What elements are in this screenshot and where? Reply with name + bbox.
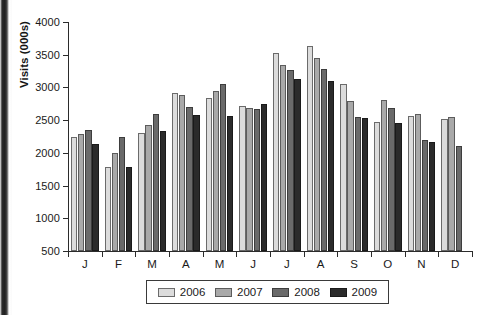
bar-2006-J xyxy=(71,137,77,252)
bar-2009-A xyxy=(328,81,334,251)
bar-2007-A xyxy=(314,58,320,251)
legend-swatch-icon-2009 xyxy=(330,288,347,297)
bar-2009-J xyxy=(92,144,98,251)
bar-2007-M xyxy=(145,125,151,251)
chart-legend: 2006200720082009 xyxy=(146,280,389,304)
y-tick-label: 3500 xyxy=(35,49,60,61)
bar-2006-M xyxy=(138,133,144,251)
bar-2006-J xyxy=(273,53,279,251)
x-tick-label-february: F xyxy=(115,258,122,270)
bar-2009-F xyxy=(126,167,132,251)
bar-2008-D xyxy=(456,146,462,251)
bar-2006-M xyxy=(206,98,212,251)
bar-2006-S xyxy=(340,84,346,251)
bar-2009-O xyxy=(395,123,401,251)
bar-2007-O xyxy=(381,100,387,251)
bar-2006-A xyxy=(307,46,313,251)
bar-2008-M xyxy=(220,84,226,251)
x-tick-label-may: M xyxy=(215,258,225,270)
bar-2008-S xyxy=(355,117,361,251)
bar-2006-D xyxy=(441,119,447,251)
x-tick-mark xyxy=(337,252,338,257)
bar-2008-J xyxy=(85,130,91,251)
legend-item-2006: 2006 xyxy=(158,286,206,298)
bar-2009-J xyxy=(261,104,267,251)
x-tick-mark xyxy=(169,252,170,257)
bar-2009-J xyxy=(294,79,300,251)
bar-2008-J xyxy=(287,70,293,251)
x-tick-label-november: N xyxy=(417,258,425,270)
x-tick-mark xyxy=(405,252,406,257)
x-tick-mark xyxy=(203,252,204,257)
scan-edge-artifact-inner xyxy=(9,0,12,315)
x-tick-label-march: M xyxy=(147,258,157,270)
legend-item-2008: 2008 xyxy=(272,286,320,298)
y-tick-label: 2500 xyxy=(35,114,60,126)
bar-2007-J xyxy=(280,65,286,251)
legend-item-2009: 2009 xyxy=(330,286,378,298)
y-axis-title: Visits (000s) xyxy=(18,72,30,88)
legend-label: 2006 xyxy=(180,286,206,298)
legend-label: 2007 xyxy=(237,286,263,298)
legend-label: 2009 xyxy=(352,286,378,298)
bar-2007-M xyxy=(213,91,219,251)
y-tick-label: 1000 xyxy=(35,212,60,224)
bar-2006-O xyxy=(374,122,380,251)
x-tick-mark xyxy=(270,252,271,257)
legend-swatch-icon-2007 xyxy=(215,288,232,297)
bar-2007-D xyxy=(448,117,454,251)
y-tick-label: 2000 xyxy=(35,147,60,159)
bar-2009-M xyxy=(227,116,233,251)
x-tick-label-september: S xyxy=(350,258,358,270)
bar-2009-A xyxy=(193,115,199,251)
bar-2006-J xyxy=(239,106,245,251)
x-tick-mark xyxy=(102,252,103,257)
bar-2006-N xyxy=(408,116,414,251)
x-tick-label-august: A xyxy=(317,258,325,270)
bar-2007-F xyxy=(112,153,118,251)
x-tick-label-january: J xyxy=(82,258,88,270)
bar-2008-A xyxy=(186,107,192,251)
x-tick-mark xyxy=(472,252,473,257)
legend-swatch-icon-2008 xyxy=(272,288,289,297)
plot-area xyxy=(68,22,472,251)
bar-2006-A xyxy=(172,93,178,251)
bar-2009-M xyxy=(160,131,166,251)
bar-2008-F xyxy=(119,137,125,252)
y-tick-label: 3000 xyxy=(35,81,60,93)
x-tick-mark xyxy=(371,252,372,257)
x-tick-label-december: D xyxy=(451,258,459,270)
x-tick-label-july: J xyxy=(284,258,290,270)
x-tick-label-june: J xyxy=(250,258,256,270)
bar-chart-figure: Visits (000s) 50010001500200025003000350… xyxy=(0,0,493,315)
bar-2006-F xyxy=(105,167,111,251)
bar-2009-N xyxy=(429,142,435,251)
bar-2007-A xyxy=(179,95,185,251)
bar-2008-M xyxy=(153,114,159,251)
bar-2007-J xyxy=(246,108,252,251)
bar-2008-A xyxy=(321,69,327,251)
y-tick-label: 1500 xyxy=(35,180,60,192)
bar-2009-S xyxy=(362,118,368,251)
bar-2007-J xyxy=(78,134,84,251)
y-tick-label: 500 xyxy=(41,245,60,257)
x-tick-mark xyxy=(68,252,69,257)
x-tick-mark xyxy=(304,252,305,257)
x-tick-label-october: O xyxy=(383,258,392,270)
bar-2007-S xyxy=(347,101,353,251)
scan-edge-artifact xyxy=(0,0,9,315)
bar-2008-O xyxy=(388,108,394,251)
bar-2008-J xyxy=(254,109,260,251)
x-tick-mark xyxy=(236,252,237,257)
legend-item-2007: 2007 xyxy=(215,286,263,298)
x-tick-mark xyxy=(438,252,439,257)
bar-2008-N xyxy=(422,140,428,251)
legend-swatch-icon-2006 xyxy=(158,288,175,297)
x-tick-mark xyxy=(135,252,136,257)
bar-2007-N xyxy=(415,114,421,251)
legend-label: 2008 xyxy=(294,286,320,298)
y-tick-label: 4000 xyxy=(35,16,60,28)
x-tick-label-april: A xyxy=(182,258,190,270)
